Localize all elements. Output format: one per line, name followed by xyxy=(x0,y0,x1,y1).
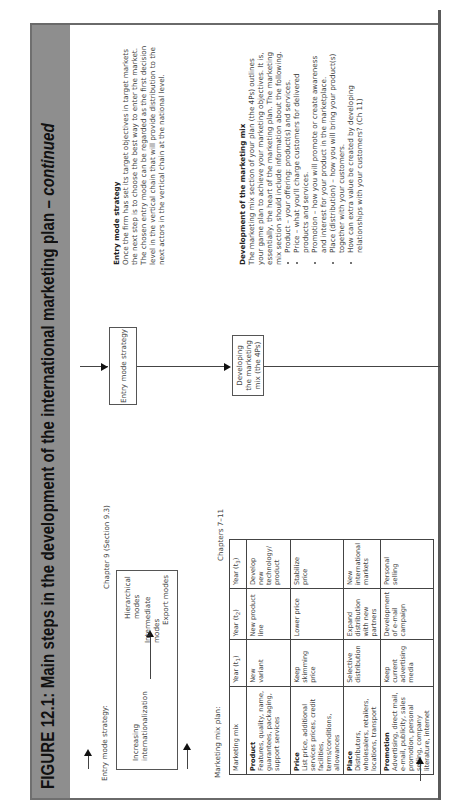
table-cell: Keep skimming price xyxy=(291,640,344,686)
table-header-cell: Year (t1) xyxy=(230,640,247,686)
chapter-ref-entry-mode: Chapter 9 (Section 9.3) xyxy=(102,505,111,589)
table-row: PriceList price, additional services pri… xyxy=(291,540,344,775)
flow-box-entry-mode: Entry mode strategy xyxy=(109,327,137,405)
entry-mode-description-title: Entry mode strategy xyxy=(112,45,121,265)
flow-line-middle xyxy=(137,366,226,367)
figure-title: FIGURE 12.1: Main steps in the developme… xyxy=(38,123,59,789)
bullet-item: Place (distribution) – how you will brin… xyxy=(328,41,346,253)
flow-line-bottom xyxy=(264,366,440,367)
arrow-head-icon xyxy=(416,757,424,764)
increasing-internationalization-label: Increasing internationalization xyxy=(131,691,149,761)
entry-mode-box: Increasing internationalization Hierarch… xyxy=(116,570,178,770)
flow-arrow-down-icon xyxy=(224,363,231,371)
table-header-row: Marketing mix Year (t1) Year (t2) Year (… xyxy=(230,540,247,775)
arrow-head-icon xyxy=(183,743,191,750)
table-row: ProductFeatures, quality, name, guarante… xyxy=(247,540,291,775)
table-cell: New variant xyxy=(247,640,291,686)
marketing-mix-table: Marketing mix Year (t1) Year (t2) Year (… xyxy=(229,539,434,775)
bullet-item: How can extra value be created by develo… xyxy=(346,41,364,253)
table-header-cell: Year (t2) xyxy=(230,588,247,639)
right-frame-rule xyxy=(30,23,440,25)
table-header-cell: Year (t3) xyxy=(230,540,247,589)
table-cell: New product line xyxy=(247,588,291,639)
marketing-mix-panel-label: Marketing mix plan: xyxy=(213,706,222,778)
table-cell: Development of e-mail campaign xyxy=(381,588,434,639)
marketing-mix-description-title: Development of the marketing mix xyxy=(238,41,247,265)
bullet-item: Price – what you'll charge customers for… xyxy=(292,41,310,253)
table-cell-mix: PromotionAdvertising, direct mail, e-mai… xyxy=(381,686,434,774)
chapter-ref-marketing-mix: Chapters 7–11 xyxy=(216,509,225,561)
table-header-cell: Marketing mix xyxy=(230,686,247,774)
table-row: PromotionAdvertising, direct mail, e-mai… xyxy=(381,540,434,775)
table-cell: Selective distribution xyxy=(344,640,381,686)
table-cell-mix: ProductFeatures, quality, name, guarante… xyxy=(247,686,291,774)
mode-export: Export modes xyxy=(161,571,170,625)
mode-intermediate: Intermediate modes xyxy=(143,571,161,643)
arrow-shaft xyxy=(88,755,89,769)
marketing-mix-description: Development of the marketing mix The mar… xyxy=(238,41,364,265)
table-cell: Personal selling xyxy=(381,540,434,589)
left-frame-rule xyxy=(70,798,440,800)
bottom-rule xyxy=(438,10,441,800)
flow-arrow-down-icon xyxy=(101,363,108,371)
arrow-head-icon xyxy=(84,749,92,756)
table-cell: Stabilize price xyxy=(291,540,344,589)
bullet-item: Product – your offering: product(s) and … xyxy=(283,41,292,253)
entry-mode-description-text: Once the firm has set its target objecti… xyxy=(121,45,166,265)
table-cell: New international markets xyxy=(344,540,381,589)
table-cell-mix: PlaceDistributors, wholesalers, retailer… xyxy=(344,686,381,774)
entry-mode-panel-label: Entry mode strategy: xyxy=(100,705,109,781)
arrow-shaft xyxy=(420,763,421,781)
table-cell: Expand distribution with new partners xyxy=(344,588,381,639)
internationalization-arrow-shaft xyxy=(150,637,151,679)
marketing-mix-bullets: Product – your offering: product(s) and … xyxy=(283,41,364,265)
figure-title-main: FIGURE 12.1: Main steps in the developme… xyxy=(38,196,58,789)
flow-box-marketing-mix: Developing the marketing mix (the 4Ps) xyxy=(232,335,264,396)
figure-title-continued: continued xyxy=(38,123,58,196)
bullet-item: Promotion – how you will promote or crea… xyxy=(310,41,328,253)
entry-mode-description: Entry mode strategy Once the firm has se… xyxy=(112,45,166,265)
rotated-page: FIGURE 12.1: Main steps in the developme… xyxy=(0,0,465,811)
table-cell: Develop new technology/ product xyxy=(247,540,291,589)
marketing-mix-description-text: The marketing mix section of your plan (… xyxy=(247,41,283,265)
arrow-shaft xyxy=(187,749,188,769)
table-row: PlaceDistributors, wholesalers, retailer… xyxy=(344,540,381,775)
table-cell: Keep current advertising media xyxy=(381,640,434,686)
table-cell-mix: PriceList price, additional services pri… xyxy=(291,686,344,774)
mode-hierarchical: Hierarchical modes xyxy=(123,569,141,619)
table-cell: Lower price xyxy=(291,588,344,639)
